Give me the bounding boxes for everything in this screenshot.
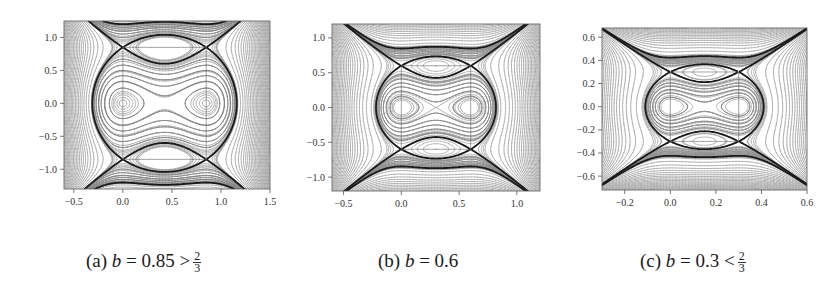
x-tick-label: −0.2 — [616, 197, 634, 208]
x-tick-label: 0.0 — [664, 197, 677, 208]
y-tick-label: −0.6 — [577, 171, 595, 182]
y-tick-label: −0.2 — [577, 124, 595, 135]
y-tick-label: 0.0 — [583, 101, 596, 112]
caption-a-var: b — [112, 250, 122, 271]
y-tick-label: −0.4 — [577, 147, 595, 158]
phase-portrait-c: −0.20.00.20.40.6−0.6−0.4−0.20.00.20.40.6 — [0, 0, 839, 230]
caption-a-label: (a) — [86, 250, 107, 271]
y-tick-label: 0.6 — [583, 32, 596, 43]
caption-b-var: b — [405, 250, 415, 271]
caption-a-rel: = 0.85 > — [126, 250, 190, 271]
caption-b-rel: = 0.6 — [419, 250, 458, 271]
x-tick-label: 0.6 — [801, 197, 814, 208]
caption-c-fraction: 23 — [738, 251, 746, 274]
contour-lines — [602, 28, 807, 190]
caption-c-label: (c) — [640, 250, 661, 271]
y-tick-label: 0.2 — [583, 78, 596, 89]
caption-c: (c) b = 0.3 <23 — [640, 250, 746, 274]
y-tick-label: 0.4 — [583, 55, 596, 66]
caption-b: (b) b = 0.6 — [378, 250, 458, 272]
caption-c-rel: = 0.3 < — [680, 250, 735, 271]
x-tick-label: 0.4 — [755, 197, 768, 208]
caption-b-label: (b) — [378, 250, 400, 271]
caption-a-fraction: 23 — [193, 251, 201, 274]
x-tick-label: 0.2 — [710, 197, 723, 208]
caption-c-var: b — [666, 250, 676, 271]
caption-a: (a) b = 0.85 >23 — [86, 250, 201, 274]
